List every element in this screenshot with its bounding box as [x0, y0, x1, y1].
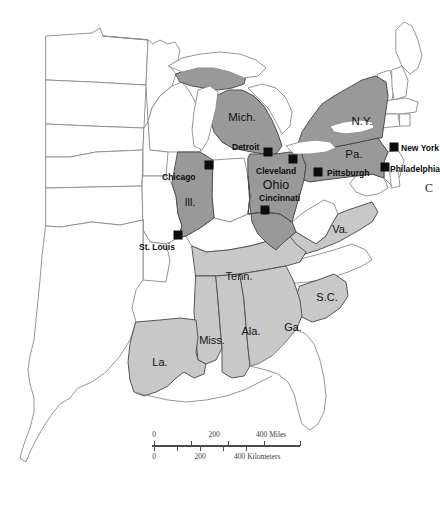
scale-tick-mi-200	[228, 441, 229, 446]
scale-tick-km-0	[154, 446, 155, 451]
city-marker-new-york[interactable]	[390, 143, 399, 152]
scale-miles-unit: 400 Miles	[256, 430, 286, 439]
scale-miles-tick-0: 0	[152, 430, 156, 439]
city-label-pittsburgh: Pittsburgh	[327, 168, 370, 178]
city-marker-chicago[interactable]	[205, 161, 214, 170]
clipped-edge-letter: C	[425, 181, 433, 196]
scale-miles-tick-200: 200	[208, 430, 219, 439]
city-label-chicago: Chicago	[162, 172, 196, 182]
city-marker-detroit[interactable]	[264, 148, 273, 157]
city-marker-pittsburgh[interactable]	[314, 168, 323, 177]
state-la	[128, 318, 206, 396]
scale-bar: 0 200 400 Miles 0 200 400 Kilometers	[152, 430, 312, 463]
city-marker-st-louis[interactable]	[174, 231, 183, 240]
state-me	[396, 22, 422, 74]
city-label-detroit: Detroit	[232, 142, 259, 152]
scale-tick-km-200	[200, 446, 201, 451]
scale-tick-mi-400	[300, 441, 301, 446]
scale-line	[152, 445, 300, 447]
scale-tick-km-300	[223, 446, 224, 451]
state-nh	[392, 66, 408, 100]
city-label-philadelphia: Philadelphia	[390, 164, 440, 174]
scale-tick-mi-300	[264, 441, 265, 446]
state-nd	[46, 28, 148, 85]
scale-miles-numbers: 0 200 400 Miles	[152, 430, 312, 441]
state-ok	[46, 186, 143, 227]
scale-tick-mi-100	[191, 441, 192, 446]
city-label-cincinnati: Cincinnati	[259, 193, 300, 203]
scale-kilometers-numbers: 0 200 400 Kilometers	[152, 452, 312, 463]
state-tx	[20, 220, 143, 462]
scale-ticks	[152, 441, 312, 452]
state-ri	[400, 114, 410, 126]
city-label-st-louis: St. Louis	[139, 242, 175, 252]
state-sd	[46, 80, 146, 128]
city-marker-philadelphia[interactable]	[381, 163, 390, 172]
state-in	[212, 158, 250, 222]
city-marker-cincinnati[interactable]	[261, 206, 270, 215]
scale-km-tick-200: 200	[194, 452, 205, 461]
scale-tick-km-400	[246, 446, 247, 451]
scale-km-unit: 400 Kilometers	[234, 452, 280, 461]
scale-tick-km-100	[177, 446, 178, 451]
city-label-cleveland: Cleveland	[256, 166, 296, 176]
city-marker-cleveland[interactable]	[289, 155, 298, 164]
city-label-new-york: New York	[401, 143, 439, 153]
scale-km-tick-0: 0	[152, 452, 156, 461]
